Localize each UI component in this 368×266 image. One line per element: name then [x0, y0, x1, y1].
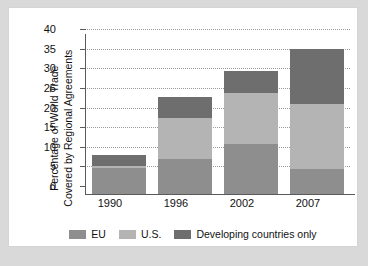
legend-item-developing-countries-only[interactable]: Developing countries only — [174, 229, 316, 240]
bar-2002[interactable] — [224, 71, 278, 194]
bar-segment-1990-u-s[interactable] — [92, 166, 146, 168]
bar-segment-2002-eu[interactable] — [224, 144, 278, 194]
bar-2007[interactable] — [290, 49, 344, 194]
y-tick-label-10: 10 — [16, 142, 56, 153]
legend-label: Developing countries only — [196, 229, 316, 240]
chart-legend: EUU.S.Developing countries only — [9, 229, 368, 240]
legend-label: U.S. — [141, 229, 161, 240]
bar-segment-2002-developing-countries-only[interactable] — [224, 71, 278, 93]
chart-panel: Percentage of World Trade Covered by Reg… — [9, 8, 357, 246]
legend-swatch-icon — [119, 230, 136, 239]
gridline-40 — [87, 29, 350, 30]
y-tick-label-35: 35 — [16, 44, 56, 55]
bar-1996[interactable] — [158, 97, 212, 194]
legend-item-eu[interactable]: EU — [69, 229, 106, 240]
y-tick-label-20: 20 — [16, 103, 56, 114]
y-tick-label-15: 15 — [16, 122, 56, 133]
bar-segment-2007-eu[interactable] — [290, 169, 344, 194]
y-tick-label-0: 0 — [16, 181, 56, 192]
y-tick-label-40: 40 — [16, 24, 56, 35]
legend-swatch-icon — [174, 230, 191, 239]
bar-segment-1996-developing-countries-only[interactable] — [158, 97, 212, 118]
bar-segment-2007-u-s[interactable] — [290, 104, 344, 169]
y-axis-title-line-2: Covered by Regional Agreements — [61, 33, 75, 223]
y-tick-label-5: 5 — [16, 161, 56, 172]
legend-item-u-s[interactable]: U.S. — [119, 229, 161, 240]
x-axis-label-2007: 2007 — [268, 198, 348, 209]
legend-swatch-icon — [69, 230, 86, 239]
plot-area — [86, 34, 350, 194]
bar-segment-2007-developing-countries-only[interactable] — [290, 49, 344, 104]
bar-segment-1996-eu[interactable] — [158, 159, 212, 194]
bar-segment-1990-eu[interactable] — [92, 168, 146, 194]
bar-segment-2002-u-s[interactable] — [224, 93, 278, 144]
x-axis-line — [85, 194, 355, 195]
bar-segment-1996-u-s[interactable] — [158, 118, 212, 159]
y-tick-40 — [80, 29, 86, 30]
chart-figure: Percentage of World Trade Covered by Reg… — [0, 0, 368, 266]
bar-segment-1990-developing-countries-only[interactable] — [92, 155, 146, 166]
bar-1990[interactable] — [92, 155, 146, 194]
y-tick-label-25: 25 — [16, 83, 56, 94]
y-tick-label-30: 30 — [16, 63, 56, 74]
legend-label: EU — [91, 229, 106, 240]
